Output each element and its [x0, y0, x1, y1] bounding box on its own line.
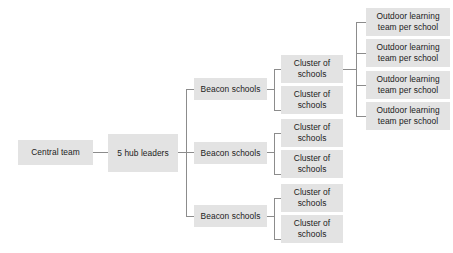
node-outdoor-learning-team-4[interactable]: Outdoor learning team per school	[366, 102, 450, 130]
connector-cluster-1-to-outdoor-trunk	[343, 69, 356, 70]
node-cluster-of-schools-3[interactable]: Cluster of schools	[281, 119, 343, 147]
connector-trunk-to-outdoor-1	[356, 22, 366, 23]
connector-trunk-to-cluster-4	[274, 174, 281, 175]
node-outdoor-learning-team-3[interactable]: Outdoor learning team per school	[366, 71, 450, 99]
connector-outdoor-trunk	[356, 22, 357, 117]
connector-cluster-trunk-3	[274, 198, 275, 239]
connector-trunk-to-outdoor-2	[356, 53, 366, 54]
node-outdoor-learning-team-2[interactable]: Outdoor learning team per school	[366, 39, 450, 67]
connector-trunk-to-cluster-3	[274, 133, 281, 134]
node-beacon-schools-3[interactable]: Beacon schools	[194, 205, 267, 227]
node-beacon-schools-1[interactable]: Beacon schools	[194, 78, 267, 100]
connector-trunk-to-outdoor-3	[356, 85, 366, 86]
node-central-team[interactable]: Central team	[18, 140, 93, 165]
node-outdoor-learning-team-1[interactable]: Outdoor learning team per school	[366, 8, 450, 36]
connector-trunk-to-beacon-3	[186, 216, 194, 217]
connector-trunk-to-cluster-2	[274, 110, 281, 111]
node-cluster-of-schools-1[interactable]: Cluster of schools	[281, 55, 343, 83]
connector-cluster-trunk-1	[274, 69, 275, 110]
node-beacon-schools-2[interactable]: Beacon schools	[194, 142, 267, 164]
connector-trunk-to-outdoor-4	[356, 116, 366, 117]
connector-trunk-to-cluster-6	[274, 239, 281, 240]
node-hub-leaders[interactable]: 5 hub leaders	[108, 134, 178, 172]
connector-trunk-to-cluster-5	[274, 198, 281, 199]
node-cluster-of-schools-2[interactable]: Cluster of schools	[281, 86, 343, 114]
connector-trunk-to-cluster-1	[274, 69, 281, 70]
connector-trunk-to-beacon-1	[186, 89, 194, 90]
node-cluster-of-schools-4[interactable]: Cluster of schools	[281, 150, 343, 178]
connector-central-to-hub	[93, 152, 108, 153]
node-cluster-of-schools-5[interactable]: Cluster of schools	[281, 184, 343, 212]
org-chart-diagram: Central team 5 hub leaders Beacon school…	[0, 0, 453, 253]
node-cluster-of-schools-6[interactable]: Cluster of schools	[281, 215, 343, 243]
connector-cluster-trunk-2	[274, 133, 275, 174]
connector-trunk-to-beacon-2	[186, 152, 194, 153]
